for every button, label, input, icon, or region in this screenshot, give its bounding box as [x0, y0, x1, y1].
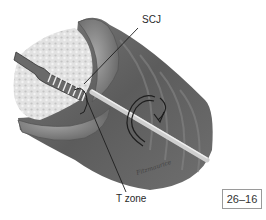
figure-number: 26–16	[222, 189, 262, 209]
scj-label: SCJ	[142, 14, 161, 25]
cervical-brush-illustration: Fitzmaurice SCJ T zone 26–16	[0, 0, 266, 220]
t-zone-label: T zone	[116, 193, 146, 204]
illustration-artwork: Fitzmaurice	[0, 0, 266, 220]
